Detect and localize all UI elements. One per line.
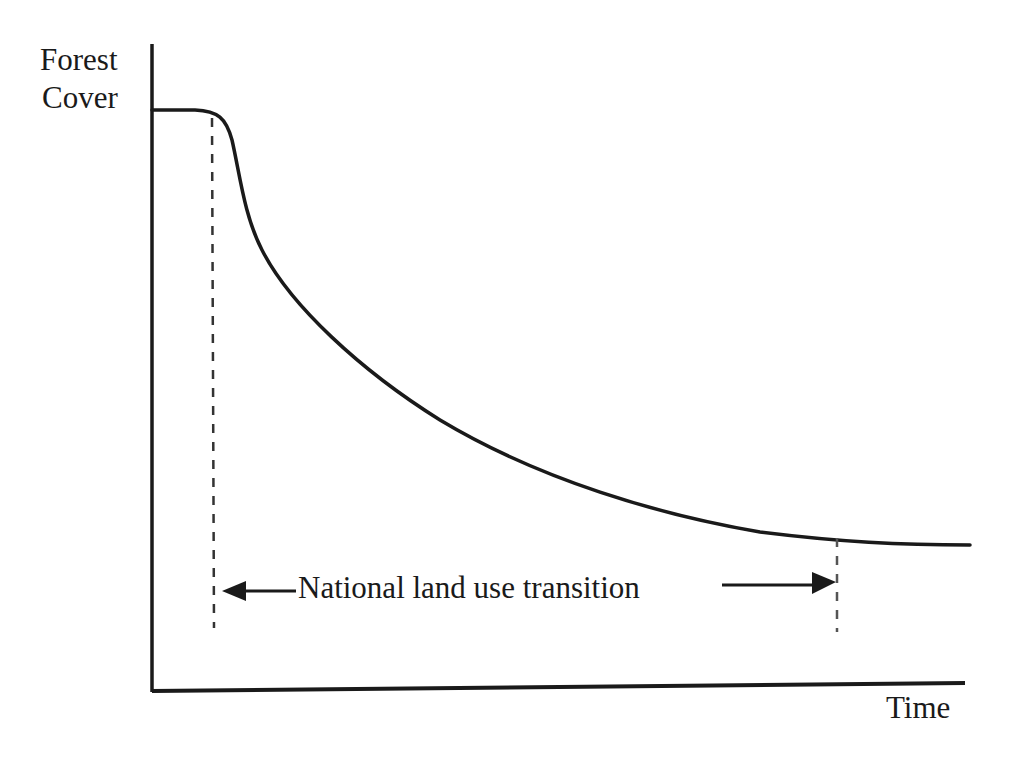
x-axis-label: Time [886, 692, 950, 723]
transition-start-marker [212, 118, 214, 628]
transition-annotation: National land use transition [296, 570, 642, 606]
chart-canvas [0, 0, 1023, 763]
y-axis-label-line1: Forest [40, 44, 118, 75]
y-axis-label-line2: Cover [42, 82, 118, 113]
x-axis [152, 683, 965, 691]
arrow-right-head-icon [812, 572, 836, 594]
arrow-left-head-icon [222, 581, 246, 601]
forest-cover-curve [152, 110, 970, 545]
